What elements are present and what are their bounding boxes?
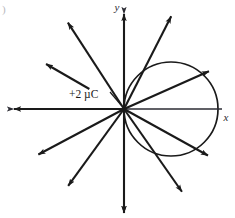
field-line-diagram-canvas: x y +2 µC ) <box>0 0 235 218</box>
x-axis-label: x <box>223 111 229 123</box>
panel-letter-label: ) <box>2 3 6 16</box>
charge-value-label: +2 µC <box>69 88 99 101</box>
y-axis-label: y <box>114 1 120 13</box>
physics-diagram-figure: x y +2 µC ) <box>0 0 235 218</box>
